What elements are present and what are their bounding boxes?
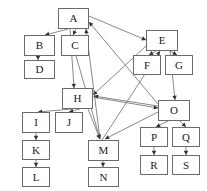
node-label: B xyxy=(36,40,43,51)
graph-edge-h-to-o xyxy=(93,97,158,109)
node-label: D xyxy=(36,64,44,75)
graph-edge-p-to-r xyxy=(152,147,156,155)
graph-node-k[interactable]: K xyxy=(22,140,50,160)
graph-node-f[interactable]: F xyxy=(133,55,161,75)
graph-edge-h-to-m xyxy=(88,109,100,139)
graph-node-q[interactable]: Q xyxy=(172,127,200,147)
graph-node-l[interactable]: L xyxy=(22,167,50,187)
graph-diagram: ABCDEFGHIJKLMNOPQRS xyxy=(0,0,207,191)
graph-node-g[interactable]: G xyxy=(165,55,193,75)
node-label: O xyxy=(170,105,178,116)
arrow-head-icon xyxy=(84,29,88,33)
node-label: S xyxy=(183,160,189,171)
node-label: J xyxy=(67,117,71,128)
node-label: F xyxy=(144,60,150,71)
graph-node-o[interactable]: O xyxy=(158,100,190,121)
graph-node-h[interactable]: H xyxy=(62,88,93,109)
graph-edge-i-to-k xyxy=(34,133,38,140)
node-label: I xyxy=(34,117,38,128)
graph-edge-k-to-l xyxy=(34,160,38,167)
node-label: A xyxy=(70,13,78,24)
graph-node-p[interactable]: P xyxy=(140,127,168,147)
graph-node-r[interactable]: R xyxy=(140,155,168,175)
graph-edge-a-to-e xyxy=(89,16,146,40)
arrow-head-icon xyxy=(96,134,100,139)
node-label: N xyxy=(100,172,108,183)
graph-node-d[interactable]: D xyxy=(24,60,55,79)
node-label: L xyxy=(33,172,40,183)
arrow-head-icon xyxy=(94,94,98,98)
graph-node-a[interactable]: A xyxy=(58,8,89,29)
graph-node-m[interactable]: M xyxy=(88,140,119,161)
graph-node-n[interactable]: N xyxy=(88,167,119,187)
node-label: M xyxy=(99,145,109,156)
graph-node-i[interactable]: I xyxy=(22,112,50,133)
graph-edge-q-to-s xyxy=(184,147,188,155)
arrow-head-icon xyxy=(97,134,101,139)
arrow-head-icon xyxy=(105,135,110,139)
node-label: P xyxy=(151,132,157,143)
node-label: Q xyxy=(182,132,190,143)
node-label: G xyxy=(175,60,183,71)
graph-node-e[interactable]: E xyxy=(146,30,178,51)
node-label: C xyxy=(71,40,78,51)
graph-node-s[interactable]: S xyxy=(172,155,200,175)
arrow-head-icon xyxy=(93,91,98,95)
graph-edge-o-to-h xyxy=(94,94,158,106)
node-label: H xyxy=(74,93,82,104)
node-label: E xyxy=(159,35,166,46)
graph-node-j[interactable]: J xyxy=(55,112,83,133)
node-label: R xyxy=(150,160,157,171)
graph-node-b[interactable]: B xyxy=(24,35,55,56)
node-label: K xyxy=(32,145,40,156)
arrow-head-icon xyxy=(89,22,93,27)
graph-node-c[interactable]: C xyxy=(61,35,89,56)
